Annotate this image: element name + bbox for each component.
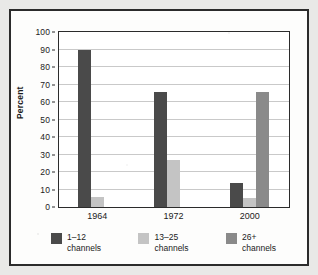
y-tick-mark [52, 172, 55, 173]
y-tick-label: 100 [36, 27, 50, 37]
legend-item: 26+channels [226, 232, 276, 258]
bars-layer [59, 32, 288, 207]
x-axis: 196419722000 [59, 211, 288, 225]
y-tick-label: 70 [40, 80, 50, 90]
chart-legend: 1–12channels13–25channels26+channels [51, 232, 276, 258]
chart-frame: Percent 0102030405060708090100 196419722… [9, 9, 309, 266]
legend-label-line2: channels [242, 243, 276, 254]
y-tick-label: 40 [40, 132, 50, 142]
y-tick-mark [52, 67, 55, 68]
legend-label-line1: 1–12 [67, 232, 101, 243]
legend-label-line1: 13–25 [154, 232, 188, 243]
x-tick-label: 1972 [163, 211, 183, 221]
legend-swatch [51, 233, 62, 244]
bar [167, 160, 180, 207]
y-tick-label: 10 [40, 185, 50, 195]
bar-group [59, 32, 135, 207]
y-tick-label: 20 [40, 167, 50, 177]
legend-label: 1–12channels [67, 232, 101, 253]
bar-group [212, 32, 288, 207]
legend-label-line1: 26+ [242, 232, 276, 243]
bar [256, 92, 269, 208]
legend-item: 13–25channels [138, 232, 188, 258]
y-tick-mark [52, 119, 55, 120]
legend-swatch [226, 233, 237, 244]
bar [78, 50, 91, 208]
y-axis: 0102030405060708090100 [11, 31, 55, 208]
chart-area: Percent 0102030405060708090100 196419722… [11, 11, 311, 268]
legend-label: 13–25channels [154, 232, 188, 253]
x-tick-label: 2000 [240, 211, 260, 221]
bar [154, 92, 167, 208]
legend-label-line2: channels [154, 243, 188, 254]
y-tick-mark [52, 84, 55, 85]
y-tick-mark [52, 189, 55, 190]
legend-item: 1–12channels [51, 232, 101, 258]
y-tick-label: 50 [40, 115, 50, 125]
y-tick-label: 30 [40, 150, 50, 160]
y-tick-label: 90 [40, 45, 50, 55]
legend-swatch [138, 233, 149, 244]
y-tick-mark [52, 154, 55, 155]
bar [91, 197, 104, 208]
y-tick-mark [52, 102, 55, 103]
y-tick-mark [52, 49, 55, 50]
bar [230, 183, 243, 208]
legend-label: 26+channels [242, 232, 276, 253]
figure-container: Percent 0102030405060708090100 196419722… [0, 0, 318, 275]
y-tick-mark [52, 32, 55, 33]
y-tick-label: 80 [40, 62, 50, 72]
bar-group [135, 32, 211, 207]
x-tick-label: 1964 [87, 211, 107, 221]
y-tick-label: 60 [40, 97, 50, 107]
y-tick-mark [52, 137, 55, 138]
legend-label-line2: channels [67, 243, 101, 254]
y-tick-mark [52, 207, 55, 208]
y-tick-label: 0 [45, 202, 50, 212]
bar [243, 198, 256, 207]
